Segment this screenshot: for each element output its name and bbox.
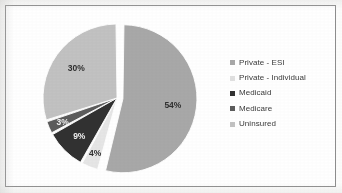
legend-item[interactable]: Private - Individual bbox=[230, 70, 334, 85]
legend-swatch-icon bbox=[230, 122, 235, 127]
legend-item-label: Private - Individual bbox=[239, 74, 306, 82]
pie-slice[interactable] bbox=[106, 25, 197, 173]
chart-legend: Private - ESIPrivate - IndividualMedicai… bbox=[230, 55, 334, 132]
pie-slice-group bbox=[43, 24, 197, 173]
pie-chart-figure: 54%4%9%3%30% Private - ESIPrivate - Indi… bbox=[0, 0, 342, 193]
legend-swatch-icon bbox=[230, 91, 235, 96]
legend-item[interactable]: Uninsured bbox=[230, 117, 334, 132]
legend-item[interactable]: Medicaid bbox=[230, 86, 334, 101]
legend-item-label: Medicaid bbox=[239, 89, 271, 97]
legend-item[interactable]: Private - ESI bbox=[230, 55, 334, 70]
pie-slice-data-label: 3% bbox=[57, 117, 70, 127]
legend-item[interactable]: Medicare bbox=[230, 101, 334, 116]
pie-slice-data-label: 9% bbox=[73, 131, 86, 141]
legend-item-label: Medicare bbox=[239, 105, 272, 113]
pie-chart-plot-area: 54%4%9%3%30% bbox=[14, 12, 214, 182]
legend-item-label: Private - ESI bbox=[239, 59, 285, 67]
pie-slice-data-label: 30% bbox=[68, 63, 85, 73]
legend-item-label: Uninsured bbox=[239, 120, 276, 128]
legend-swatch-icon bbox=[230, 106, 235, 111]
pie-slice-data-label: 4% bbox=[89, 148, 102, 158]
pie-slice-data-label: 54% bbox=[164, 100, 181, 110]
pie-chart-svg: 54%4%9%3%30% bbox=[14, 12, 214, 182]
legend-swatch-icon bbox=[230, 60, 235, 65]
legend-swatch-icon bbox=[230, 76, 235, 81]
